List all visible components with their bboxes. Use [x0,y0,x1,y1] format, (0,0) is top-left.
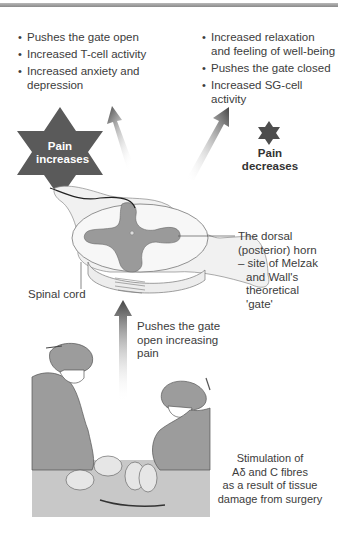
dorsal-horn-label: The dorsal (posterior) horn – site of Me… [238,230,338,311]
spinal-cord-illustration [50,186,269,293]
dorsal-horn-line3: – site of Melzak [238,257,338,271]
stimulation-label: Stimulation of Aδ and C fibres as a resu… [212,452,328,506]
upward-arrow-line1: Pushes the gate [137,320,220,334]
pain-decreases-label: Pain decreases [240,147,300,173]
stimulation-line3: as a result of tissue [212,479,328,493]
spinal-cord-label: Spinal cord [28,288,86,302]
pain-increases-line1: Pain [36,140,84,153]
dorsal-horn-line6: 'gate' [238,298,338,312]
pain-decreases-line1: Pain [240,147,300,160]
arrow-up-left-icon [107,106,136,172]
dorsal-horn-line5: theoretical [238,284,338,298]
pain-decreases-star-icon [258,121,280,145]
dorsal-horn-line2: (posterior) horn [238,244,338,258]
pain-increases-line2: increases [36,153,84,166]
upward-arrow-label: Pushes the gate open increasing pain [137,320,220,361]
pain-decreases-line2: decreases [240,160,300,173]
stimulation-line2: Aδ and C fibres [212,466,328,480]
arrow-up-right-icon [186,107,229,180]
stimulation-line1: Stimulation of [212,452,328,466]
upward-arrow-line2: open increasing [137,334,220,348]
stimulation-line4: damage from surgery [212,493,328,507]
dorsal-horn-line4: and Wall's [238,271,338,285]
dorsal-horn-line1: The dorsal [238,230,338,244]
arrow-up-icon [114,300,132,402]
pain-increases-label: Pain increases [36,140,84,166]
upward-arrow-line3: pain [137,347,220,361]
